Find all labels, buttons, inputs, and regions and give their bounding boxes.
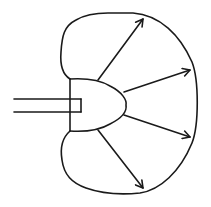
arrow-upper — [98, 19, 143, 80]
source-dome — [70, 79, 126, 131]
feed-stem — [14, 99, 81, 112]
diagram-canvas — [0, 0, 211, 207]
radiation-pattern-diagram — [0, 0, 211, 207]
arrow-lower — [98, 130, 143, 188]
radiation-arrows — [98, 19, 190, 188]
arrow-upper-right — [124, 70, 190, 92]
arrow-lower-right — [124, 115, 190, 137]
